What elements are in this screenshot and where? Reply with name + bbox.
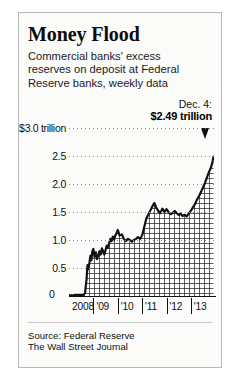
page-title: Money Flood	[28, 23, 212, 45]
y-axis-tick-label: 1.5	[52, 206, 66, 218]
gridline	[69, 240, 214, 241]
plot-region: $3.0 trillion2.52.01.51.00.5 0 2008'09'1…	[19, 116, 223, 316]
gridline	[69, 184, 214, 185]
x-axis-tick-label: '12	[170, 301, 183, 312]
callout-date: Dec. 4:	[151, 99, 212, 111]
gridline	[69, 212, 214, 213]
gridline	[69, 268, 214, 269]
x-axis-tick-label: '09	[96, 301, 109, 312]
y-axis-labels: $3.0 trillion2.52.01.51.00.5	[19, 128, 66, 296]
source-note: Source: Federal Reserve The Wall Street …	[28, 330, 135, 353]
x-axis-tick	[118, 298, 119, 314]
x-axis-tick	[167, 298, 168, 314]
y-axis-tick-label: 0.5	[52, 262, 66, 274]
source-line-1: Source: Federal Reserve	[28, 330, 135, 342]
plot-area	[69, 128, 214, 296]
chart-card: Money Flood Commercial banks' excess res…	[18, 12, 222, 368]
source-line-2: The Wall Street Journal	[28, 341, 135, 353]
y-axis-tick-label: 1.0	[52, 234, 66, 246]
y-axis-tick-label: 2.0	[52, 178, 66, 190]
gridline	[69, 156, 214, 157]
chart-subtitle: Commercial banks' excess reserves on dep…	[28, 50, 206, 90]
gridline	[69, 128, 214, 129]
x-axis-tick	[191, 298, 192, 314]
x-axis-tick-label: '10	[121, 301, 134, 312]
x-axis-tick	[142, 298, 143, 314]
x-axis-tick-label: '11	[145, 301, 157, 312]
divider	[28, 322, 212, 323]
y-axis-tick-label: 2.5	[52, 150, 66, 162]
x-axis-tick-label: 2008	[72, 301, 94, 312]
x-axis-tick-label: '13	[194, 301, 207, 312]
x-axis-labels: 2008'09'10'11'12'13	[69, 298, 216, 315]
card-inner: Money Flood Commercial banks' excess res…	[19, 13, 221, 367]
y-axis-zero-label: 0	[49, 288, 55, 300]
y-axis-tick-label: $3.0 trillion	[19, 122, 66, 134]
x-axis-tick	[93, 298, 94, 314]
